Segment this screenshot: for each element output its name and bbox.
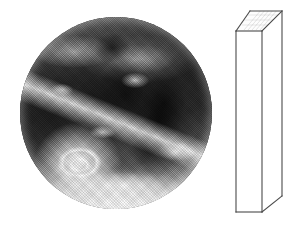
- figure-canvas: Earth globe and rectangular box figure G…: [0, 0, 291, 231]
- box-right-side-face: [262, 11, 282, 212]
- box-front-face: [236, 31, 262, 212]
- box-drawing: [0, 0, 291, 231]
